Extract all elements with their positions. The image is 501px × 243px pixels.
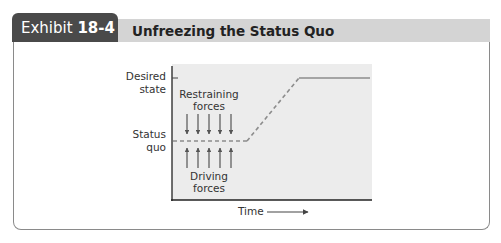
y-label-desired-1: Desired [126, 70, 166, 82]
restraining-label-1: Restraining [179, 88, 238, 100]
force-diagram: Desired state Status quo Restraining for… [0, 0, 501, 243]
restraining-label-2: forces [193, 100, 225, 112]
driving-label-1: Driving [190, 170, 228, 182]
y-label-status-2: quo [146, 141, 166, 153]
y-label-status-1: Status [133, 128, 166, 140]
driving-label-2: forces [193, 182, 225, 194]
y-label-desired-2: state [139, 83, 166, 95]
x-axis-label: Time [237, 205, 264, 217]
